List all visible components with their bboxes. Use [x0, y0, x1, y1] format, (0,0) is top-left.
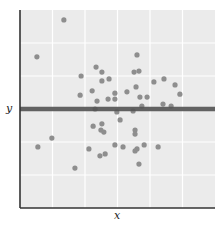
data-point	[34, 54, 39, 59]
data-point	[35, 144, 40, 149]
data-point	[132, 131, 137, 136]
data-point	[136, 68, 141, 73]
data-point	[99, 78, 104, 83]
data-point	[78, 93, 83, 98]
data-point	[79, 73, 84, 78]
data-point	[131, 69, 136, 74]
data-point	[118, 117, 123, 122]
y-axis-label: y	[6, 102, 12, 115]
data-point	[94, 98, 99, 103]
data-point	[105, 97, 110, 102]
data-point	[99, 121, 104, 126]
data-point	[86, 146, 91, 151]
data-point	[90, 88, 95, 93]
data-point	[120, 144, 125, 149]
data-point	[97, 153, 102, 158]
data-point	[49, 135, 54, 140]
data-point	[99, 69, 104, 74]
data-point	[156, 144, 161, 149]
data-point	[106, 76, 111, 81]
data-point	[136, 162, 141, 167]
data-point	[172, 82, 177, 87]
data-point	[124, 89, 129, 94]
data-point	[177, 92, 182, 97]
data-point	[134, 52, 139, 57]
data-point	[112, 91, 117, 96]
data-point	[101, 130, 106, 135]
data-point	[133, 84, 138, 89]
data-point	[112, 97, 117, 102]
data-point	[160, 101, 165, 106]
data-point	[142, 142, 147, 147]
data-point	[61, 17, 66, 22]
data-point	[144, 95, 149, 100]
data-point	[112, 142, 117, 147]
scatter-plot	[0, 0, 224, 231]
data-point	[103, 151, 108, 156]
data-point	[91, 124, 96, 129]
data-point	[161, 76, 166, 81]
data-point	[72, 165, 77, 170]
x-axis-label: x	[114, 209, 120, 222]
data-point	[151, 79, 156, 84]
data-point	[93, 64, 98, 69]
data-point	[137, 95, 142, 100]
data-point	[132, 148, 137, 153]
